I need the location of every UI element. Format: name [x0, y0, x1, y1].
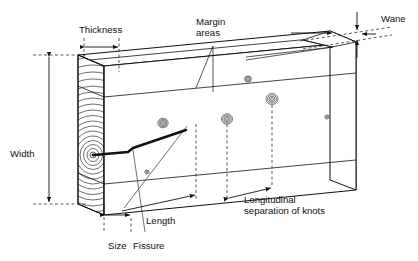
length-label: Length: [146, 215, 175, 226]
board-front-face: [104, 42, 356, 215]
figure-canvas: Thickness Width Size Length Longitudinal…: [0, 0, 418, 261]
longitudinal-separation-label-line1: Longitudinal: [244, 194, 296, 205]
longitudinal-separation-label-line2: separation of knots: [244, 205, 325, 216]
timber-defect-diagram: Thickness Width Size Length Longitudinal…: [0, 0, 418, 261]
board-right-end-face: [330, 31, 356, 190]
fissure-label: Fissure: [133, 240, 164, 251]
margin-areas-label-line1: Margin: [196, 16, 225, 27]
thickness-label: Thickness: [79, 24, 122, 35]
width-label: Width: [10, 148, 35, 159]
size-label: Size: [108, 240, 127, 251]
board-body: [78, 31, 356, 215]
wane-label: Wane: [381, 13, 406, 24]
margin-areas-label-line2: areas: [196, 27, 220, 38]
